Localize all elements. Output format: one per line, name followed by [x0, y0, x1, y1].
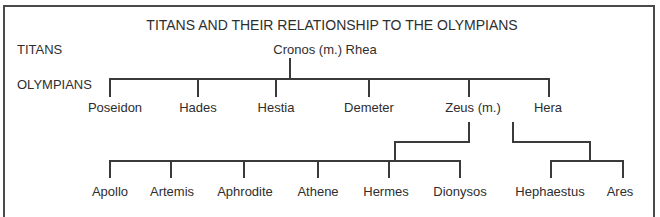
child-artemis: Artemis [150, 184, 194, 200]
connector-aphrodite [243, 160, 245, 178]
connector-zeus-hera-down [512, 122, 514, 142]
connector-artemis [170, 160, 172, 178]
connector-olympians-bar [109, 78, 550, 80]
connector-dionysos [459, 160, 461, 178]
connector-zeus-children-drop [394, 141, 396, 161]
olympian-hestia: Hestia [258, 100, 295, 116]
olympian-hera: Hera [534, 100, 562, 116]
olympian-hades: Hades [179, 100, 217, 116]
connector-cronos-down [289, 58, 291, 79]
connector-hera [548, 78, 550, 97]
diagram-title: TITANS AND THEIR RELATIONSHIP TO THE OLY… [146, 17, 517, 33]
connector-hestia [275, 78, 277, 97]
connector-zeus-children-bar [109, 160, 461, 162]
connector-hades [197, 78, 199, 97]
row-label-olympians: OLYMPIANS [17, 77, 92, 93]
connector-hephaestus [550, 160, 552, 178]
connector-zeus-hera-elbow [512, 141, 591, 143]
child-athene: Athene [297, 184, 338, 200]
child-dionysos: Dionysos [433, 184, 486, 200]
connector-zeus-elbow [394, 141, 470, 143]
child-hephaestus: Hephaestus [515, 184, 584, 200]
child-ares: Ares [607, 184, 634, 200]
connector-zeus-hera-children-bar [550, 160, 624, 162]
connector-zeus-hera-children-drop [589, 141, 591, 161]
child-hermes: Hermes [363, 184, 409, 200]
connector-ares [622, 160, 624, 178]
olympian-demeter: Demeter [344, 100, 394, 116]
connector-hermes [388, 160, 390, 178]
row-label-titans: TITANS [17, 42, 62, 58]
olympian-zeus: Zeus (m.) [445, 100, 501, 116]
connector-athene [317, 160, 319, 178]
child-apollo: Apollo [92, 184, 128, 200]
titan-couple-cronos-rhea: Cronos (m.) Rhea [273, 42, 376, 58]
child-aphrodite: Aphrodite [217, 184, 273, 200]
connector-zeus [468, 78, 470, 97]
olympian-poseidon: Poseidon [88, 100, 142, 116]
connector-apollo [109, 160, 111, 178]
connector-zeus-down [468, 122, 470, 142]
connector-demeter [368, 78, 370, 97]
connector-poseidon [109, 78, 111, 97]
